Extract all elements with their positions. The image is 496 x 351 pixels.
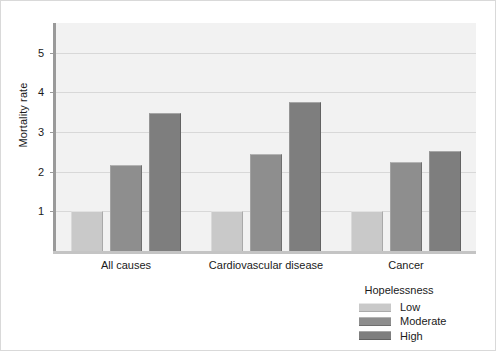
bar — [390, 162, 422, 251]
plot-area — [56, 23, 476, 251]
bar — [71, 211, 103, 251]
bar — [211, 211, 243, 251]
gridline — [56, 53, 476, 54]
bar — [110, 165, 142, 251]
x-axis-baseline — [53, 251, 476, 254]
y-axis-tick-mark — [50, 211, 56, 212]
legend-entry: High — [331, 330, 481, 342]
bar — [351, 211, 383, 251]
legend-label: Moderate — [400, 315, 446, 327]
x-axis-category-label: Cancer — [316, 259, 496, 271]
gridline — [56, 132, 476, 133]
chart-figure: Mortality rate 12345 All causesCardiovas… — [0, 0, 496, 351]
bar — [429, 151, 461, 251]
gridline — [56, 92, 476, 93]
bar — [289, 102, 321, 251]
legend-title: Hopelessness — [331, 284, 481, 296]
legend: Hopelessness LowModerateHigh — [331, 284, 481, 344]
y-axis-tick-mark — [50, 92, 56, 93]
y-axis-tick-label: 4 — [22, 87, 44, 98]
y-axis-tick-label: 1 — [22, 206, 44, 217]
legend-label: Low — [400, 301, 420, 313]
bar — [250, 154, 282, 251]
legend-swatch — [359, 303, 391, 312]
legend-swatch — [359, 317, 391, 326]
legend-entry: Moderate — [331, 315, 481, 327]
bar — [149, 113, 181, 251]
y-axis-tick-label: 3 — [22, 127, 44, 138]
legend-swatch — [359, 331, 391, 340]
y-axis-tick-mark — [50, 172, 56, 173]
y-axis-tick-mark — [50, 53, 56, 54]
legend-entry: Low — [331, 301, 481, 313]
legend-entries: LowModerateHigh — [331, 301, 481, 342]
y-axis-tick-mark — [50, 132, 56, 133]
y-axis-title: Mortality rate — [17, 55, 29, 175]
legend-label: High — [400, 330, 423, 342]
y-axis-tick-label: 5 — [22, 48, 44, 59]
y-axis-tick-label: 2 — [22, 167, 44, 178]
